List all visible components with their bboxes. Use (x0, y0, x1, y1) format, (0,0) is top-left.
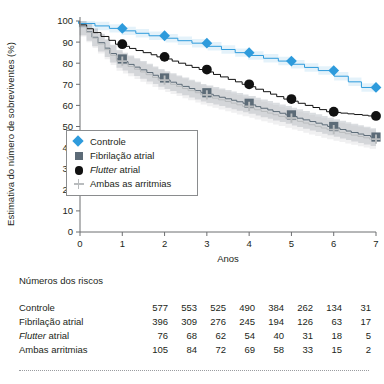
plus-marker-icon (72, 177, 86, 191)
risk-row-label-text: Controle (19, 302, 55, 313)
legend-item-flutter-atrial: Flutter atrial (72, 163, 191, 177)
risk-cell: 18 (313, 329, 342, 343)
risk-cell: 54 (226, 329, 255, 343)
y-tick-label: 90 (62, 37, 73, 48)
risk-cell: 68 (168, 329, 197, 343)
legend-label-flutter-atrial: Flutter atrial (90, 163, 140, 177)
numbers-at-risk-section: Números dos riscos Controle5775535254903… (0, 268, 384, 384)
risk-table-row: Ambas arritmias1058472695833152 (19, 343, 371, 357)
risk-row-label: Flutter atrial (19, 329, 139, 343)
risk-row-label: Controle (19, 301, 139, 315)
risk-cell: 126 (284, 315, 313, 329)
risk-cell: 134 (313, 301, 342, 315)
survival-curve-figure: 010203040506070809010001234567 Estimativ… (0, 0, 384, 384)
footer-divider (19, 370, 369, 371)
legend-item-ambas-arritmias: Ambas as arritmias (72, 177, 191, 191)
risk-cell: 553 (168, 301, 197, 315)
y-tick-label: 10 (62, 205, 73, 216)
risk-cell: 105 (139, 343, 168, 357)
risk-row-label: Fibrilação atrial (19, 315, 139, 329)
risk-cell: 309 (168, 315, 197, 329)
x-tick-label: 2 (162, 238, 167, 249)
legend-label-controle: Controle (90, 135, 126, 149)
y-tick-label: 0 (68, 226, 73, 237)
risk-table-title: Números dos riscos (19, 275, 103, 286)
risk-cell: 72 (197, 343, 226, 357)
legend-item-controle: Controle (72, 135, 191, 149)
risk-cell: 40 (255, 329, 284, 343)
chart-legend: Controle Fibrilação atrial Flutter atria… (66, 130, 198, 196)
risk-cell: 31 (342, 301, 371, 315)
risk-cell: 15 (313, 343, 342, 357)
marker-circle (329, 107, 339, 117)
risk-cell: 384 (255, 301, 284, 315)
risk-cell: 5 (342, 329, 371, 343)
risk-cell: 525 (197, 301, 226, 315)
x-tick-label: 1 (120, 238, 125, 249)
marker-circle (160, 52, 170, 62)
y-tick-label: 80 (62, 58, 73, 69)
risk-table-row: Fibrilação atrial3963092762451941266317 (19, 315, 371, 329)
risk-cell: 63 (313, 315, 342, 329)
risk-cell: 577 (139, 301, 168, 315)
marker-circle (287, 94, 297, 104)
risk-table-row: Flutter atrial766862544031185 (19, 329, 371, 343)
marker-circle (244, 79, 254, 89)
risk-cell: 76 (139, 329, 168, 343)
risk-row-label-text: atrial (46, 330, 69, 341)
risk-row-label: Ambas arritmias (19, 343, 139, 357)
risk-cell: 490 (226, 301, 255, 315)
legend-label-fibrilacao-atrial: Fibrilação atrial (90, 149, 154, 163)
legend-label-flutter-italic: Flutter (90, 164, 117, 175)
risk-cell: 245 (226, 315, 255, 329)
y-tick-label: 70 (62, 79, 73, 90)
risk-cell: 58 (255, 343, 284, 357)
risk-cell: 2 (342, 343, 371, 357)
y-tick-label: 100 (57, 15, 73, 26)
circle-marker-icon (72, 163, 86, 177)
risk-row-label-text: Fibrilação atrial (19, 316, 83, 327)
risk-cell: 62 (197, 329, 226, 343)
x-tick-label: 5 (289, 238, 294, 249)
x-tick-label: 4 (246, 238, 251, 249)
risk-cell: 69 (226, 343, 255, 357)
risk-row-label-italic: Flutter (19, 330, 46, 341)
risk-cell: 33 (284, 343, 313, 357)
square-marker-icon (72, 149, 86, 163)
x-tick-label: 6 (331, 238, 336, 249)
x-tick-label: 7 (373, 238, 378, 249)
x-tick-label: 0 (77, 238, 82, 249)
risk-cell: 31 (284, 329, 313, 343)
risk-row-label-text: Ambas arritmias (19, 344, 88, 355)
marker-circle (117, 39, 127, 49)
x-tick-label: 3 (204, 238, 209, 249)
risk-cell: 84 (168, 343, 197, 357)
marker-circle (202, 65, 212, 75)
risk-cell: 17 (342, 315, 371, 329)
legend-label-ambas-arritmias: Ambas as arritmias (90, 177, 171, 191)
diamond-marker-icon (72, 135, 86, 149)
y-tick-label: 60 (62, 100, 73, 111)
legend-item-fibrilacao-atrial: Fibrilação atrial (72, 149, 191, 163)
risk-table-row: Controle57755352549038426213431 (19, 301, 371, 315)
legend-label-flutter-rest: atrial (117, 164, 140, 175)
risk-cell: 276 (197, 315, 226, 329)
risk-table: Controle57755352549038426213431Fibrilaçã… (19, 301, 371, 357)
marker-circle (371, 111, 381, 121)
x-axis-title: Anos (217, 253, 239, 264)
risk-cell: 396 (139, 315, 168, 329)
risk-cell: 194 (255, 315, 284, 329)
risk-cell: 262 (284, 301, 313, 315)
y-axis-title: Estimativa do número de sobreviventes (%… (5, 42, 16, 226)
